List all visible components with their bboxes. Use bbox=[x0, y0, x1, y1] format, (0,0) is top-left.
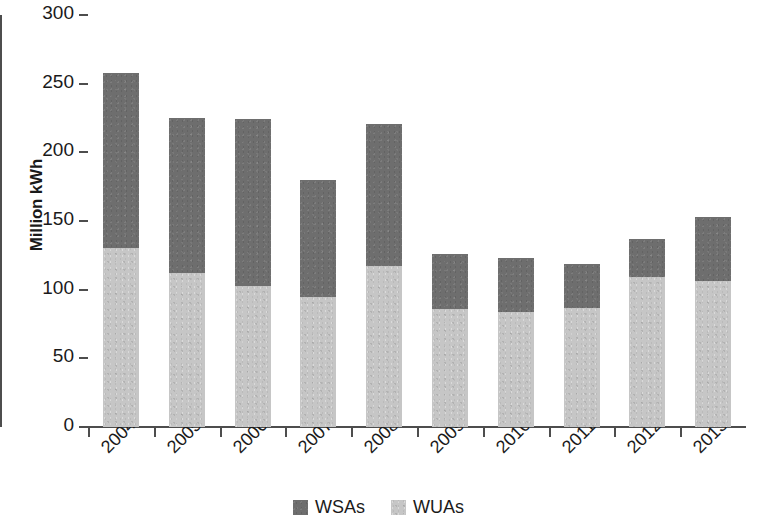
bar-segment-wsas bbox=[300, 180, 336, 297]
plot-area bbox=[88, 15, 746, 427]
y-axis-tick-label: 0 bbox=[0, 414, 74, 436]
x-axis-tick bbox=[417, 428, 419, 437]
y-axis-tick bbox=[79, 357, 88, 359]
bar-segment-wsas bbox=[366, 124, 402, 267]
legend-entry-wsas: WSAs bbox=[293, 498, 365, 516]
bar-segment-wsas bbox=[629, 239, 665, 277]
bar-segment-wsas bbox=[432, 254, 468, 309]
bar-segment-wuas bbox=[432, 309, 468, 427]
x-axis-tick bbox=[614, 428, 616, 437]
x-axis-tick bbox=[680, 428, 682, 437]
x-axis-tick bbox=[154, 428, 156, 437]
bar-segment-wsas bbox=[564, 264, 600, 308]
bar-segment-wuas bbox=[366, 266, 402, 427]
x-axis-tick bbox=[483, 428, 485, 437]
bar-segment-wuas bbox=[498, 312, 534, 427]
bar-segment-wsas bbox=[103, 73, 139, 249]
square-swatch-dark bbox=[293, 500, 308, 515]
bar-segment-wuas bbox=[695, 281, 731, 427]
y-axis-tick-label: 250 bbox=[0, 71, 74, 93]
legend-entry-wuas: WUAs bbox=[391, 498, 464, 516]
square-swatch-light bbox=[391, 500, 406, 515]
bar-segment-wuas bbox=[564, 308, 600, 427]
legend-label: WUAs bbox=[413, 498, 464, 516]
x-axis-tick bbox=[549, 428, 551, 437]
y-axis-tick-label: 150 bbox=[0, 208, 74, 230]
y-axis-tick bbox=[79, 426, 88, 428]
bar-segment-wsas bbox=[235, 119, 271, 285]
legend-label: WSAs bbox=[315, 498, 365, 516]
stacked-bar-chart: Million kWh 050100150200250300 200420052… bbox=[0, 0, 757, 528]
y-axis-tick bbox=[79, 14, 88, 16]
bar-segment-wuas bbox=[169, 273, 205, 427]
y-axis-tick bbox=[79, 151, 88, 153]
y-axis-tick-label: 50 bbox=[0, 345, 74, 367]
bar-segment-wsas bbox=[498, 258, 534, 312]
x-axis-tick bbox=[88, 428, 90, 437]
y-axis-tick-label: 100 bbox=[0, 277, 74, 299]
x-axis-tick bbox=[285, 428, 287, 437]
bar-segment-wuas bbox=[103, 248, 139, 427]
y-axis-tick bbox=[79, 83, 88, 85]
bar-segment-wsas bbox=[169, 118, 205, 273]
x-axis-tick bbox=[220, 428, 222, 437]
bar-segment-wuas bbox=[629, 277, 665, 427]
y-axis-tick bbox=[79, 289, 88, 291]
x-axis-tick bbox=[351, 428, 353, 437]
y-axis-tick-label: 300 bbox=[0, 2, 74, 24]
y-axis-tick bbox=[79, 220, 88, 222]
y-axis-tick-label: 200 bbox=[0, 139, 74, 161]
chart-legend: WSAsWUAs bbox=[0, 498, 757, 516]
bar-segment-wuas bbox=[300, 297, 336, 427]
bar-segment-wsas bbox=[695, 217, 731, 282]
bar-segment-wuas bbox=[235, 286, 271, 427]
